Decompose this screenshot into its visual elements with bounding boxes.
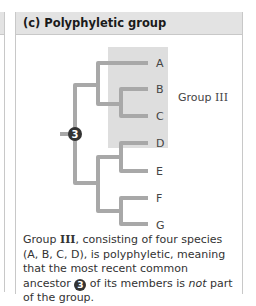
tree-branches <box>60 63 148 224</box>
svg-text:3: 3 <box>72 129 79 140</box>
group-label: Group III <box>178 91 228 104</box>
caption: Group III, consisting of four species (A… <box>23 233 239 306</box>
leaf-b: B <box>156 83 164 96</box>
leaf-e: E <box>156 165 163 178</box>
ancestor-node-3: 3 <box>68 127 82 141</box>
leaf-g: G <box>156 219 165 232</box>
ancestor-node-badge: 3 <box>74 279 86 291</box>
leaf-d: D <box>156 137 164 150</box>
leaf-c: C <box>156 110 164 123</box>
leaf-f: F <box>156 192 162 205</box>
leaf-a: A <box>156 57 164 70</box>
